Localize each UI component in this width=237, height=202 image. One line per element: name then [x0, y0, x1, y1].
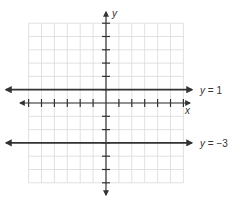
x-axis-label: x: [184, 105, 191, 116]
line-label-y-equals-1: y = 1: [199, 85, 222, 96]
line-label-y-equals-neg3: y = −3: [199, 138, 228, 149]
axes: [20, 12, 190, 195]
coordinate-plane: y x y = 1 y = −3: [0, 0, 237, 202]
y-axis-label: y: [111, 8, 118, 19]
